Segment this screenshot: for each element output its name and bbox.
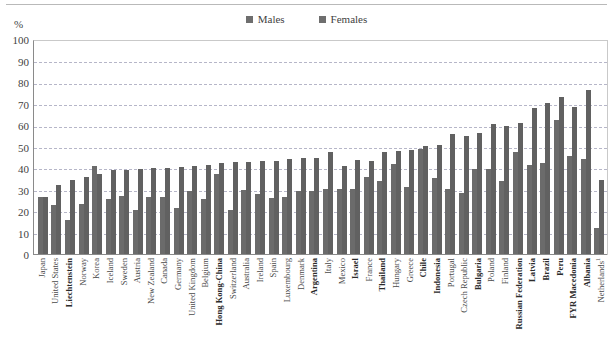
bar-group[interactable] [280,41,294,255]
bar-group[interactable] [104,41,118,255]
bar-group[interactable] [416,41,430,255]
x-label-cell: Poland [485,256,499,348]
bar-females[interactable] [559,97,564,255]
bar-group[interactable] [511,41,525,255]
bar-females[interactable] [382,152,387,255]
bar-group[interactable] [321,41,335,255]
bar-females[interactable] [314,158,319,255]
bar-females[interactable] [179,167,184,255]
bar-females[interactable] [464,136,469,255]
bar-females[interactable] [56,185,61,255]
bar-group[interactable] [308,41,322,255]
x-label-cell: Greece [403,256,417,348]
x-label-cell: Switzerland [226,256,240,348]
bar-group[interactable] [525,41,539,255]
x-label-cell: Hong Kong-China [212,256,226,348]
bar-females[interactable] [396,151,401,255]
bar-females[interactable] [124,170,129,255]
bar-females[interactable] [246,162,251,255]
bar-group[interactable] [471,41,485,255]
bar-group[interactable] [538,41,552,255]
bar-group[interactable] [443,41,457,255]
legend-label-females: Females [331,14,368,25]
bar-group[interactable] [389,41,403,255]
bar-females[interactable] [43,197,48,255]
bar-females[interactable] [477,133,482,255]
bar-females[interactable] [491,124,496,255]
bar-females[interactable] [260,161,265,255]
bar-females[interactable] [450,134,455,255]
bar-group[interactable] [348,41,362,255]
bar-females[interactable] [369,161,374,255]
bar-females[interactable] [301,158,306,255]
bar-females[interactable] [151,168,156,255]
bar-females[interactable] [545,103,550,255]
bar-group[interactable] [362,41,376,255]
bar-females[interactable] [70,180,75,255]
bar-group[interactable] [267,41,281,255]
bar-females[interactable] [138,169,143,255]
bar-females[interactable] [532,108,537,255]
bar-females[interactable] [111,170,116,255]
bar-group[interactable] [145,41,159,255]
bar-group[interactable] [593,41,607,255]
x-axis-label: Japan [37,258,46,278]
bar-group[interactable] [90,41,104,255]
bar-group[interactable] [185,41,199,255]
bar-females[interactable] [342,166,347,255]
bar-group[interactable] [50,41,64,255]
bar-group[interactable] [430,41,444,255]
x-label-cell: Thailand [376,256,390,348]
x-label-cell: New Zealand [144,256,158,348]
bar-group[interactable] [240,41,254,255]
bar-females[interactable] [274,161,279,255]
bar-group[interactable] [117,41,131,255]
bar-group[interactable] [63,41,77,255]
bar-group[interactable] [552,41,566,255]
bar-group[interactable] [579,41,593,255]
bar-group[interactable] [457,41,471,255]
x-axis-label: Brazil [541,258,550,280]
bar-females[interactable] [437,145,442,255]
bar-females[interactable] [599,180,604,255]
y-tick-label-0: 0 [1,250,29,261]
bar-group[interactable] [566,41,580,255]
y-tick-label-10: 10 [1,229,29,240]
bar-females[interactable] [586,90,591,255]
bar-females[interactable] [206,165,211,255]
bar-females[interactable] [409,150,414,255]
bar-females[interactable] [328,152,333,255]
bar-females[interactable] [165,168,170,255]
bar-females[interactable] [192,166,197,255]
bar-group[interactable] [226,41,240,255]
x-axis-label: Thailand [378,258,387,291]
x-axis-label: Germany [174,258,183,290]
bar-group[interactable] [131,41,145,255]
bar-females[interactable] [355,160,360,255]
bar-group[interactable] [213,41,227,255]
bar-females[interactable] [219,163,224,255]
bar-group[interactable] [403,41,417,255]
bar-females[interactable] [572,107,577,255]
bar-females[interactable] [423,146,428,255]
bar-females[interactable] [97,174,102,255]
x-label-cell: France [362,256,376,348]
x-label-cell: FYR Macedonia [566,256,580,348]
bar-females[interactable] [233,162,238,255]
bar-group[interactable] [375,41,389,255]
bar-group[interactable] [253,41,267,255]
bar-group[interactable] [199,41,213,255]
x-axis-label: Liechtenstein [65,258,74,307]
bar-females[interactable] [518,123,523,255]
bar-females[interactable] [504,126,509,255]
bar-females[interactable] [287,159,292,255]
bar-group[interactable] [36,41,50,255]
bar-group[interactable] [484,41,498,255]
bar-group[interactable] [77,41,91,255]
bar-group[interactable] [335,41,349,255]
bar-group[interactable] [172,41,186,255]
bar-group[interactable] [498,41,512,255]
bar-group[interactable] [294,41,308,255]
bar-females[interactable] [84,177,89,255]
bar-group[interactable] [158,41,172,255]
